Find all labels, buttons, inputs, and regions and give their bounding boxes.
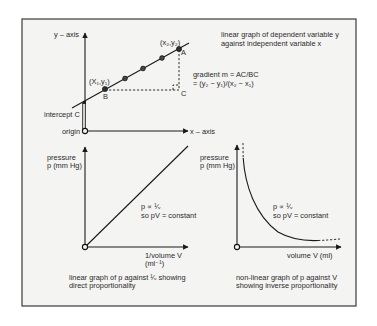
- data-point-icon: [141, 66, 146, 71]
- origin-icon: [82, 244, 87, 249]
- y-axis-label-line2: p (mm Hg): [200, 161, 235, 170]
- data-point-icon: [123, 76, 128, 81]
- relation-line1: p ∝ ¹⁄ᵥ: [273, 202, 293, 211]
- origin-label: origin: [62, 127, 80, 136]
- top-graph-title-line2: against independent variable x: [221, 39, 322, 48]
- gradient-formula-line1: gradient m = AC/BC: [193, 70, 259, 79]
- point-b-coord-label: (X₁,y₁): [89, 77, 110, 86]
- origin-icon: [234, 244, 239, 249]
- top-graph-title-line1: linear graph of dependent variable y: [221, 30, 339, 39]
- point-b-label: B: [103, 92, 108, 101]
- y-axis-label: y – axis: [54, 30, 79, 39]
- point-c-label: C: [181, 89, 187, 98]
- intercept-bar: [83, 103, 86, 131]
- graphs-diagram: y – axis x – axis origin intercept C (x₂…: [0, 0, 377, 326]
- relation-line1: p ∝ ¹⁄ᵥ: [141, 202, 161, 211]
- data-point-icon: [160, 56, 165, 61]
- relation-line2: so pV = constant: [141, 211, 196, 220]
- gradient-formula-line2: = (y₂ − y₁)/(x₂ − x₁): [193, 79, 254, 88]
- x-axis-label: volume V (ml): [287, 251, 333, 260]
- x-axis-label-line2: (ml⁻¹): [145, 259, 164, 268]
- origin-icon: [82, 128, 87, 133]
- point-a-coord-label: (x₂,y₂): [160, 38, 180, 47]
- intercept-label: intercept C: [44, 110, 80, 119]
- caption-line2: showing inverse proportionality: [236, 281, 338, 290]
- point-b-icon: [102, 86, 107, 91]
- caption-line2: direct proportionality: [69, 281, 136, 290]
- x-axis-label: x – axis: [190, 127, 215, 136]
- relation-line2: so pV = constant: [273, 211, 328, 220]
- y-axis-label-line2: p (mm Hg): [47, 161, 82, 170]
- point-a-label: A: [181, 48, 186, 57]
